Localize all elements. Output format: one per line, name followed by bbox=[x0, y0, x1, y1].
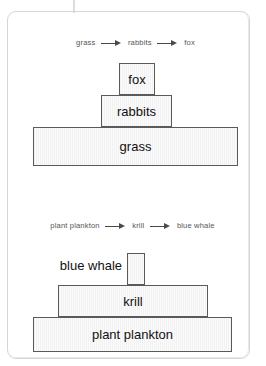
chain-node-3: blue whale bbox=[177, 221, 215, 230]
right-arrow-icon bbox=[157, 40, 179, 47]
page-canvas: grass rabbits fox fox rabbits grass plan… bbox=[0, 0, 266, 366]
food-chain-caption-terrestrial: grass rabbits fox bbox=[33, 38, 238, 47]
tier-label: fox bbox=[128, 73, 145, 86]
chain-node-1: plant plankton bbox=[50, 221, 99, 230]
page-spine-mark bbox=[73, 0, 75, 13]
food-chain-caption-marine: plant plankton krill blue whale bbox=[33, 221, 232, 230]
tier-label: rabbits bbox=[117, 105, 156, 118]
chain-node-1: grass bbox=[76, 38, 95, 47]
pyramid-tier-blue-whale bbox=[127, 253, 145, 285]
right-arrow-icon bbox=[150, 223, 172, 230]
chain-node-3: fox bbox=[184, 38, 195, 47]
pyramid-tier-fox: fox bbox=[119, 63, 155, 95]
pyramid-tier-rabbits: rabbits bbox=[101, 95, 172, 127]
pyramid-tier-grass: grass bbox=[33, 127, 238, 166]
tier-label-blue-whale-outside: blue whale bbox=[48, 259, 122, 272]
right-arrow-icon bbox=[105, 223, 127, 230]
pyramid-tier-krill: krill bbox=[58, 285, 208, 317]
right-arrow-icon bbox=[101, 40, 123, 47]
pyramid-tier-plant-plankton: plant plankton bbox=[33, 317, 232, 352]
chain-node-2: rabbits bbox=[128, 38, 152, 47]
chain-node-2: krill bbox=[132, 221, 144, 230]
tier-label: krill bbox=[123, 295, 143, 308]
tier-label: plant plankton bbox=[92, 328, 173, 341]
tier-label: grass bbox=[120, 140, 152, 153]
